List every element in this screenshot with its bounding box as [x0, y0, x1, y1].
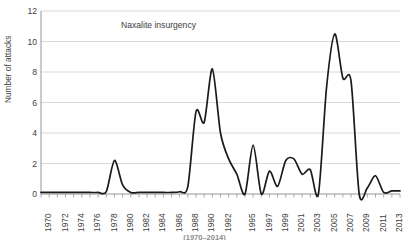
x-tick-label-1974: 1974	[77, 213, 85, 232]
figure-caption: (1970–2014)	[0, 233, 409, 240]
x-tick-label-1986: 1986	[175, 213, 183, 232]
annotation-naxalite-insurgency: Naxalite insurgency	[121, 20, 196, 30]
x-tick-label-1999: 1999	[281, 213, 289, 232]
x-tick-label-2005: 2005	[330, 213, 338, 232]
x-tick-label-1988: 1988	[191, 213, 199, 232]
x-tick-label-1984: 1984	[158, 213, 166, 232]
x-tick-label-2001: 2001	[297, 213, 305, 232]
x-tick-label-1980: 1980	[126, 213, 134, 232]
chart-container: Number of attacks 12 10 8 6 4 2 0 197019…	[0, 0, 409, 240]
x-tick-label-1992: 1992	[224, 213, 232, 232]
x-tick-label-1990: 1990	[207, 213, 215, 232]
x-tick-label-2007: 2007	[346, 213, 354, 232]
x-tick-label-1970: 1970	[44, 213, 52, 232]
x-tick-label-2009: 2009	[362, 213, 370, 232]
x-tick-label-2011: 2011	[379, 214, 387, 232]
x-tick-labels: 1970197219741976197819801982198419861988…	[0, 0, 409, 240]
x-tick-label-2013: 2013	[395, 213, 403, 232]
x-tick-label-1972: 1972	[61, 213, 69, 232]
x-tick-label-1982: 1982	[142, 213, 150, 232]
x-tick-label-1978: 1978	[110, 213, 118, 232]
x-tick-label-1997: 1997	[265, 213, 273, 232]
x-tick-label-1995: 1995	[248, 213, 256, 232]
x-tick-label-1976: 1976	[93, 213, 101, 232]
x-tick-label-2003: 2003	[313, 213, 321, 232]
